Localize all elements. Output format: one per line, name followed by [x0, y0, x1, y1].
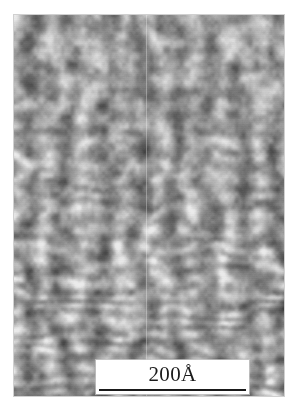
micrograph-canvas: [14, 15, 284, 396]
scale-bar-rule: [99, 389, 246, 391]
scale-bar: 200Å: [96, 360, 249, 394]
micrograph-image: [14, 15, 284, 396]
scale-bar-label: 200Å: [149, 361, 197, 388]
figure-container: 200Å: [0, 0, 298, 415]
